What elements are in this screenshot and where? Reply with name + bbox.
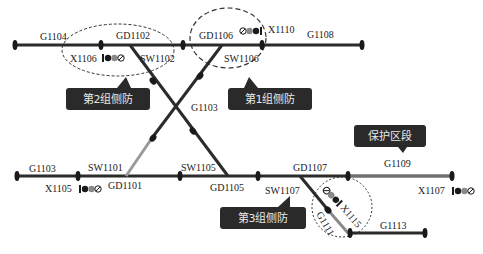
label-g1103-crossover: G1103 <box>191 102 218 113</box>
signal-x1105[interactable] <box>79 185 101 193</box>
label-sw1107: SW1107 <box>265 185 300 196</box>
label-sw1106: SW1106 <box>224 53 259 64</box>
label-sw1102: SW1102 <box>140 53 175 64</box>
label-g1103: G1103 <box>29 163 56 174</box>
callout-group1-text: 第1组侧防 <box>245 92 296 106</box>
label-sw1101: SW1101 <box>88 162 123 173</box>
callout-group2: 第2组侧防 <box>66 77 150 110</box>
label-sw1105: SW1105 <box>181 162 216 173</box>
label-g1108: G1108 <box>307 29 334 40</box>
label-gd1101: GD1101 <box>108 180 142 191</box>
callout-group2-text: 第2组侧防 <box>83 92 134 106</box>
diagonal-sw1101-protected <box>126 138 152 176</box>
callout-group3: 第3组侧防 <box>220 196 306 229</box>
label-g1111: G1111 <box>314 210 337 238</box>
label-x1110: X1110 <box>268 24 294 35</box>
label-gd1106: GD1106 <box>199 30 233 41</box>
label-x1107: X1107 <box>418 185 445 196</box>
track-layout: G1104 GD1102 GD1106 G1108 X1110 X1106 SW… <box>0 0 483 254</box>
label-gd1105: GD1105 <box>210 182 244 193</box>
callout-group3-text: 第3组侧防 <box>238 211 289 225</box>
interlocking-diagram: G1104 GD1102 GD1106 G1108 X1110 X1106 SW… <box>0 0 483 254</box>
label-x1105: X1105 <box>45 183 72 194</box>
callout-protect-text: 保护区段 <box>368 129 412 143</box>
signal-x1106[interactable] <box>102 54 124 62</box>
label-gd1107: GD1107 <box>293 162 327 173</box>
label-g1113: G1113 <box>380 220 406 231</box>
signal-x1107[interactable] <box>452 187 474 195</box>
callout-group1: 第1组侧防 <box>228 77 312 110</box>
label-x1106: X1106 <box>70 53 97 64</box>
label-g1109: G1109 <box>384 158 411 169</box>
label-g1104: G1104 <box>40 31 67 42</box>
label-gd1102: GD1102 <box>116 30 150 41</box>
callout-protect: 保护区段 <box>354 125 426 153</box>
signal-x1110[interactable] <box>240 27 262 35</box>
